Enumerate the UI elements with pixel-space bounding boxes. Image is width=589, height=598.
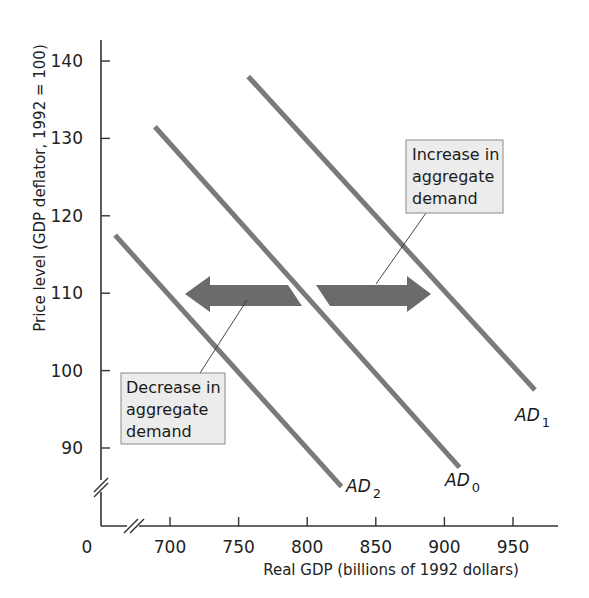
decrease-line-3: demand — [126, 422, 192, 441]
ad0-label: AD0 — [444, 470, 480, 495]
x-tick-label: 800 — [291, 537, 323, 557]
y-tick-label: 110 — [51, 283, 83, 303]
y-tick-label: 140 — [51, 51, 83, 71]
y-tick-label: 90 — [61, 438, 83, 458]
increase-arrow-icon — [316, 276, 431, 312]
decrease-line-1: Decrease in — [126, 378, 221, 397]
x-tick-label: 700 — [154, 537, 186, 557]
increase-line-3: demand — [412, 189, 478, 208]
decrease-arrow-icon — [185, 276, 302, 312]
x-tick-label: 950 — [497, 537, 529, 557]
ad1-curve — [248, 76, 535, 389]
x-tick-label: 750 — [222, 537, 254, 557]
decrease-line-2: aggregate — [126, 400, 208, 419]
y-tick-label: 100 — [51, 361, 83, 381]
increase-annotation-box: Increase in aggregate demand — [406, 140, 503, 213]
x-tick-label: 900 — [428, 537, 460, 557]
y-axis-title: Price level (GDP deflator, 1992 = 100) — [31, 44, 49, 332]
x-axis-title: Real GDP (billions of 1992 dollars) — [263, 561, 519, 579]
ad2-label: AD2 — [345, 476, 381, 501]
ad1-label: AD1 — [514, 405, 550, 430]
increase-line-2: aggregate — [412, 167, 494, 186]
y-tick-label: 120 — [51, 206, 83, 226]
shift-arrows — [185, 276, 431, 312]
ad2-curve — [115, 235, 341, 487]
aggregate-demand-chart: 90100110120130140 700750800850900950 0 R… — [0, 0, 589, 598]
y-tick-label: 130 — [51, 128, 83, 148]
x-ticks: 700750800850900950 — [154, 517, 529, 557]
increase-line-1: Increase in — [412, 145, 499, 164]
decrease-annotation-box: Decrease in aggregate demand — [121, 373, 225, 444]
origin-label: 0 — [82, 537, 93, 557]
x-tick-label: 850 — [360, 537, 392, 557]
